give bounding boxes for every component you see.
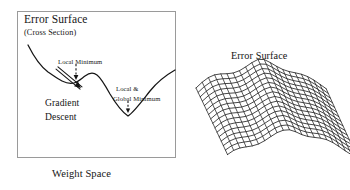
right-panel-title: Error Surface xyxy=(231,50,287,61)
figure-root: Error Surface (Cross Section) Local Mini… xyxy=(0,0,350,190)
gradient-descent-label-line2: Descent xyxy=(45,112,77,123)
weight-space-caption: Weight Space xyxy=(52,168,111,180)
global-minimum-label-line1: Local & xyxy=(116,85,139,92)
gradient-descent-label-line1: Gradient xyxy=(45,98,79,109)
left-panel-title: Error Surface xyxy=(24,13,88,26)
mesh-wireframe xyxy=(196,59,350,157)
local-minimum-label: Local Minimum xyxy=(58,58,102,65)
global-minimum-label-line2: Global Minimum xyxy=(113,95,160,102)
left-panel-subtitle: (Cross Section) xyxy=(24,28,76,37)
